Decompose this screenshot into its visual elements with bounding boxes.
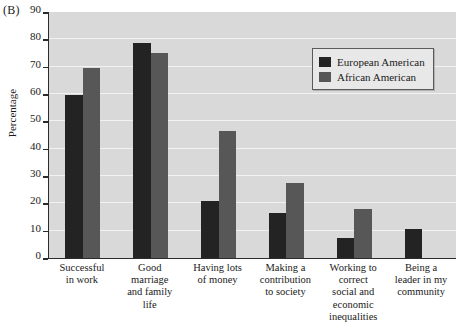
- bar: [354, 209, 372, 258]
- gridline: [49, 38, 456, 39]
- x-axis-category-label-line: correct: [319, 274, 387, 286]
- y-axis-tick-label: 30: [30, 168, 41, 179]
- y-axis-tick-label: 40: [30, 141, 41, 152]
- x-axis-category-label-line: to society: [252, 286, 320, 298]
- x-axis-category-label-line: Having lots: [184, 262, 252, 274]
- x-axis-category-label-line: in work: [48, 274, 116, 286]
- square-swatch-icon: [319, 57, 331, 67]
- x-axis-category-label-line: of money: [184, 274, 252, 286]
- gridline: [49, 230, 456, 231]
- square-swatch-icon: [319, 72, 331, 82]
- bar: [286, 183, 304, 258]
- x-axis-category-label: Having lotsof money: [184, 262, 252, 286]
- x-axis-category-label-line: Being a: [387, 262, 455, 274]
- bar: [65, 95, 83, 258]
- gridline: [49, 175, 456, 176]
- x-axis-category-label-line: marriage: [116, 274, 184, 286]
- x-axis-category-label-line: and family: [116, 286, 184, 298]
- x-axis-category-label: Goodmarriageand familylife: [116, 262, 184, 311]
- legend-item: European American: [319, 54, 425, 69]
- y-axis-ticks: 0102030405060708090: [0, 12, 48, 258]
- legend-item-label: European American: [337, 56, 425, 68]
- legend-item-label: African American: [337, 71, 416, 83]
- x-axis-category-label: Making acontributionto society: [252, 262, 320, 299]
- y-axis-tick-label: 90: [30, 4, 41, 15]
- x-axis-category-label-line: social and: [319, 286, 387, 298]
- gridline: [49, 93, 456, 94]
- bar: [405, 229, 423, 258]
- y-axis-tick-label: 10: [30, 223, 41, 234]
- x-axis-category-label-line: Good: [116, 262, 184, 274]
- gridline: [49, 202, 456, 203]
- y-axis-tick-label: 60: [30, 86, 41, 97]
- bar: [83, 68, 101, 258]
- bar: [269, 213, 287, 258]
- y-axis-tick-label: 0: [36, 250, 42, 261]
- y-axis-tick-label: 50: [30, 113, 41, 124]
- x-axis-category-labels: Successfulin workGoodmarriageand familyl…: [48, 262, 455, 324]
- bar: [133, 43, 151, 258]
- bar: [337, 238, 355, 259]
- y-axis-tick-label: 80: [30, 31, 41, 42]
- x-axis-category-label-line: Successful: [48, 262, 116, 274]
- x-axis-category-label-line: Making a: [252, 262, 320, 274]
- x-axis-category-label-line: economic: [319, 299, 387, 311]
- x-axis-category-label-line: inequalities: [319, 311, 387, 323]
- y-axis-tick-label: 70: [30, 59, 41, 70]
- x-axis-category-label-line: Working to: [319, 262, 387, 274]
- legend: European AmericanAfrican American: [312, 48, 434, 90]
- legend-item: African American: [319, 69, 425, 84]
- x-axis-category-label-line: community: [387, 286, 455, 298]
- bar: [201, 201, 219, 258]
- gridline: [49, 120, 456, 121]
- bar: [151, 53, 169, 258]
- bar: [219, 131, 237, 258]
- gridline: [49, 148, 456, 149]
- x-axis-category-label-line: leader in my: [387, 274, 455, 286]
- x-axis-category-label-line: contribution: [252, 274, 320, 286]
- y-axis-tick-label: 20: [30, 195, 41, 206]
- x-axis-category-label: Successfulin work: [48, 262, 116, 286]
- x-axis-category-label-line: life: [116, 299, 184, 311]
- x-axis-category-label: Being aleader in mycommunity: [387, 262, 455, 299]
- x-axis-category-label: Working tocorrectsocial andeconomicinequ…: [319, 262, 387, 323]
